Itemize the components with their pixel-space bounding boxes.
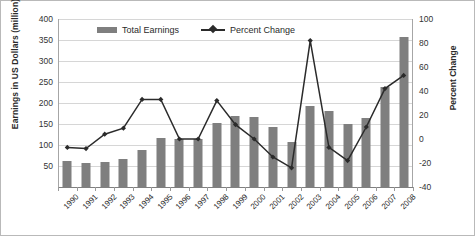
- y-axis-left-tick-label: 100: [13, 141, 53, 150]
- x-axis-tick: [77, 187, 78, 191]
- legend-label-percent-change: Percent Change: [230, 25, 295, 35]
- y-axis-right-title: Percent Change: [448, 18, 458, 138]
- x-axis-tick: [151, 187, 152, 191]
- data-point-marker: [196, 136, 201, 141]
- line-marker-swatch-icon: [201, 26, 225, 34]
- x-axis-tick: [133, 187, 134, 191]
- x-axis-tick: [58, 187, 59, 191]
- x-axis-tick: [226, 187, 227, 191]
- legend-item-total-earnings: Total Earnings: [97, 25, 179, 35]
- data-point-marker: [177, 136, 182, 141]
- x-axis-tick: [170, 187, 171, 191]
- legend-item-percent-change: Percent Change: [201, 25, 295, 35]
- x-axis-line: [58, 187, 413, 188]
- percent-change-line: [67, 41, 403, 168]
- x-axis-tick: [282, 187, 283, 191]
- y-axis-right-tick-label: 80: [419, 39, 453, 48]
- x-axis-tick: [301, 187, 302, 191]
- data-point-marker: [308, 38, 313, 43]
- x-axis-tick: [114, 187, 115, 191]
- y-axis-left-tick-label: 400: [13, 15, 53, 24]
- data-point-marker: [65, 145, 70, 150]
- y-axis-right-tick-label: 60: [419, 63, 453, 72]
- x-axis-tick: [413, 187, 414, 191]
- bar-swatch-icon: [97, 27, 117, 33]
- y-axis-right-tick-label: 40: [419, 87, 453, 96]
- legend-label-total-earnings: Total Earnings: [122, 25, 179, 35]
- data-point-marker: [158, 97, 163, 102]
- x-axis-tick: [320, 187, 321, 191]
- y-axis-left-tick-label: 350: [13, 36, 53, 45]
- x-axis-tick: [207, 187, 208, 191]
- y-axis-left-tick-label: 150: [13, 120, 53, 129]
- x-axis-tick: [264, 187, 265, 191]
- x-axis-tick: [338, 187, 339, 191]
- x-axis-tick: [189, 187, 190, 191]
- y-axis-left-tick-label: 200: [13, 99, 53, 108]
- y-axis-left-tick-label: 300: [13, 57, 53, 66]
- y-axis-right-tick-label: 0: [419, 135, 453, 144]
- x-axis-tick: [394, 187, 395, 191]
- y-axis-right-tick-label: 100: [419, 15, 453, 24]
- x-axis-tick: [95, 187, 96, 191]
- y-axis-left-tick-label: 50: [13, 162, 53, 171]
- x-axis-tick: [376, 187, 377, 191]
- chart-container: Earnings in US Dollars (million) Percent…: [0, 0, 475, 236]
- y-axis-right-tick-label: -20: [419, 159, 453, 168]
- y-axis-right-tick-label: 20: [419, 111, 453, 120]
- y-axis-right-tick-label: -40: [419, 183, 453, 192]
- y-axis-left-tick-label: 250: [13, 78, 53, 87]
- chart-legend: Total Earnings Percent Change: [97, 25, 295, 35]
- line-series-percent-change: [58, 19, 413, 187]
- x-axis-tick: [357, 187, 358, 191]
- x-axis-tick: [245, 187, 246, 191]
